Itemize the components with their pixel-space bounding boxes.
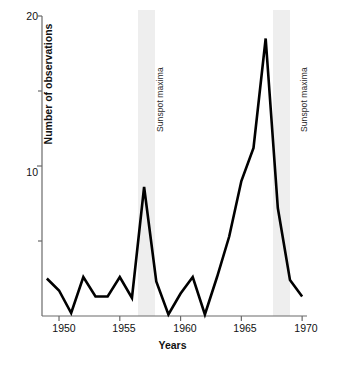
data-series-line [47,39,302,315]
chart-container: Number of observations Years 20 10 1950 … [0,0,345,365]
chart-svg [0,0,345,365]
annotation-band-1 [138,10,155,316]
x-tick-marks [59,316,302,321]
y-tick-marks [37,16,42,241]
